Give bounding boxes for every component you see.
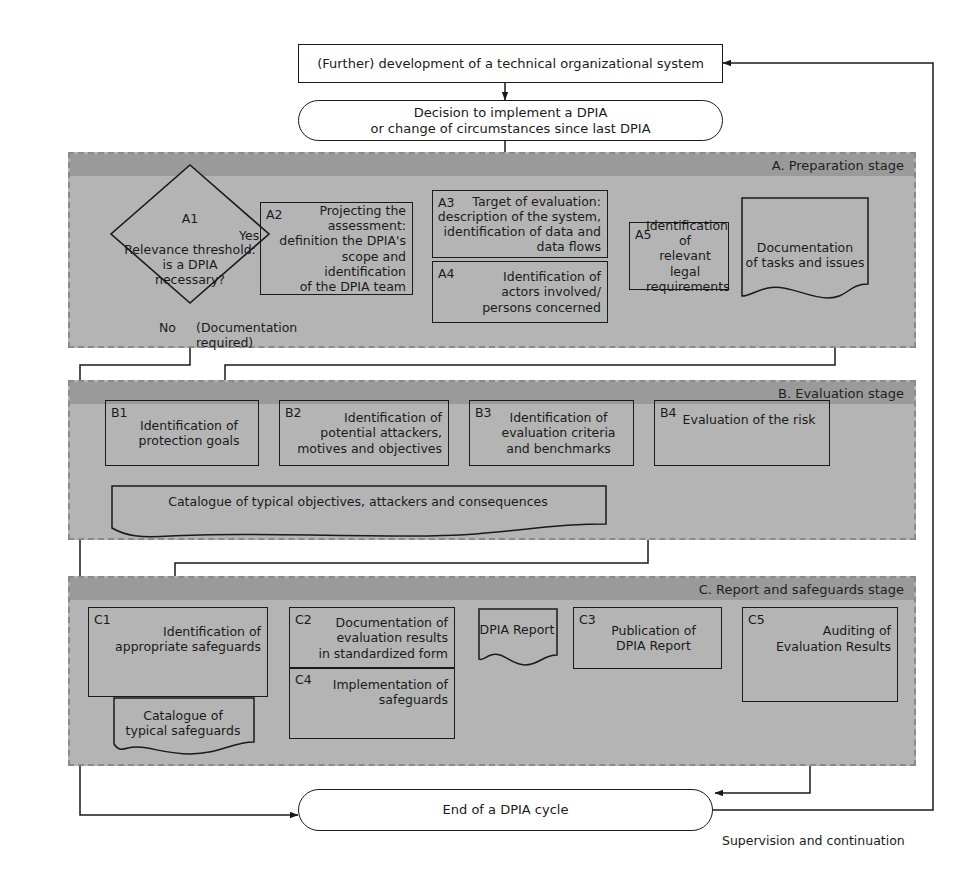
b2-tag: B2 (285, 405, 302, 420)
a1-text: Relevance threshold: is a DPIA necessary… (124, 242, 256, 288)
b3-text: Identification of evaluation criteria an… (470, 410, 633, 456)
decision-to-implement-pill[interactable]: Decision to implement a DPIA or change o… (298, 100, 723, 141)
c4-box[interactable]: C4 Implementation of safeguards (289, 667, 455, 739)
c2-box[interactable]: C2 Documentation of evaluation results i… (289, 607, 455, 669)
a1-tag: A1 (182, 211, 199, 226)
development-box-label: (Further) development of a technical org… (299, 56, 722, 72)
c5-box[interactable]: C5 Auditing of Evaluation Results (742, 607, 898, 702)
flowchart-canvas: A. Preparation stage B. Evaluation stage… (0, 0, 976, 875)
catalogue-typical-objectives-doc-shape[interactable] (110, 484, 618, 540)
b1-text: Identification of protection goals (106, 418, 258, 449)
c1-text: Identification of appropriate safeguards (89, 624, 267, 681)
a4-tag: A4 (438, 266, 455, 281)
a2-box[interactable]: A2 Projecting the assessment: definition… (260, 202, 413, 295)
label-no: No (159, 320, 176, 335)
a2-tag: A2 (266, 207, 283, 222)
c2-tag: C2 (295, 612, 312, 627)
dpia-report-doc-shape[interactable] (477, 607, 561, 669)
c4-text: Implementation of safeguards (290, 677, 454, 730)
a5-tag: A5 (635, 227, 652, 242)
a4-text: Identification of actors involved/ perso… (433, 269, 607, 315)
b1-tag: B1 (111, 405, 128, 420)
catalogue-typical-objectives-doc-label: Catalogue of typical objectives, attacke… (110, 494, 606, 509)
c2-text: Documentation of evaluation results in s… (290, 615, 454, 661)
b2-text: Identification of potential attackers, m… (280, 410, 448, 456)
b2-box[interactable]: B2 Identification of potential attackers… (279, 400, 449, 466)
supervision-continuation-label: Supervision and continuation (722, 833, 905, 848)
c3-text: Publication of DPIA Report (574, 623, 721, 654)
b3-tag: B3 (475, 405, 492, 420)
decision-pill-label: Decision to implement a DPIA or change o… (299, 105, 722, 137)
c4-tag: C4 (295, 672, 312, 687)
a5-box[interactable]: A5 Identification of relevant legal requ… (629, 222, 729, 290)
a4-box[interactable]: A4 Identification of actors involved/ pe… (432, 261, 608, 323)
dpia-report-doc-label: DPIA Report (477, 622, 557, 637)
b4-text: Evaluation of the risk (655, 412, 829, 453)
stage-c-header: C. Report and safeguards stage (70, 578, 914, 600)
b3-box[interactable]: B3 Identification of evaluation criteria… (469, 400, 634, 466)
catalogue-typical-safeguards-doc-label: Catalogue of typical safeguards (112, 708, 254, 739)
a2-text: Projecting the assessment: definition th… (261, 203, 412, 295)
end-pill-label: End of a DPIA cycle (299, 802, 712, 818)
end-of-dpia-cycle-pill[interactable]: End of a DPIA cycle (298, 789, 713, 831)
a3-text: Target of evaluation: description of the… (433, 194, 607, 255)
c1-tag: C1 (94, 612, 111, 627)
c5-tag: C5 (748, 612, 765, 627)
stage-a-header-label: A. Preparation stage (772, 158, 904, 173)
b4-box[interactable]: B4 Evaluation of the risk (654, 400, 830, 466)
a3-box[interactable]: A3 Target of evaluation: description of … (432, 190, 608, 258)
stage-b-header-label: B. Evaluation stage (778, 386, 904, 401)
stage-c-header-label: C. Report and safeguards stage (699, 582, 904, 597)
c1-box[interactable]: C1 Identification of appropriate safegua… (88, 607, 268, 697)
label-documentation-required: (Documentation required) (196, 320, 297, 350)
a3-tag: A3 (438, 195, 455, 210)
documentation-tasks-doc-label: Documentation of tasks and issues (740, 240, 870, 271)
b4-tag: B4 (660, 405, 677, 420)
label-yes: Yes (239, 228, 259, 243)
c3-box[interactable]: C3 Publication of DPIA Report (573, 607, 722, 669)
development-box[interactable]: (Further) development of a technical org… (298, 44, 723, 83)
c5-text: Auditing of Evaluation Results (743, 623, 897, 686)
b1-box[interactable]: B1 Identification of protection goals (105, 400, 259, 466)
c3-tag: C3 (579, 612, 596, 627)
